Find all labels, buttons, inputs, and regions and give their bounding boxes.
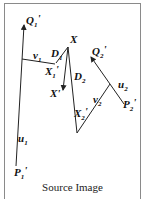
u1-vector <box>16 25 24 166</box>
label-q1-prime: Q1' <box>26 12 41 29</box>
label-v1: v1 <box>33 49 41 64</box>
label-p2-prime: P2' <box>123 96 136 113</box>
label-p1-prime: P1' <box>14 164 27 181</box>
caption: Source Image <box>0 181 145 193</box>
label-u2: u2 <box>118 78 128 93</box>
v2-segment <box>77 84 110 133</box>
line-correspondence-diagram: Q1' u1 P1' v1 X D1 X1' X' D2 Q2' u2 v2 X… <box>0 0 145 199</box>
label-q2-prime: Q2' <box>92 43 107 60</box>
label-d2: D2 <box>73 70 86 85</box>
label-d1: D1 <box>50 47 62 62</box>
d2-segment <box>68 47 77 133</box>
label-u1: u1 <box>18 132 28 147</box>
label-v2: v2 <box>93 93 102 108</box>
label-x: X <box>69 33 78 45</box>
label-x1-prime: X1' <box>44 63 59 80</box>
label-x-prime: X' <box>49 87 60 99</box>
